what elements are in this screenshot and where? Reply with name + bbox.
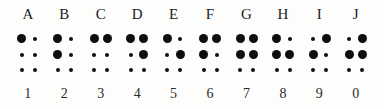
letter-label: E	[169, 7, 178, 22]
braille-dot-raised	[358, 50, 367, 59]
number-cell: 6	[194, 87, 226, 101]
braille-dot-flat	[178, 37, 182, 41]
braille-dot-flat	[20, 68, 24, 72]
braille-dot-flat	[360, 68, 364, 72]
braille-dot-raised	[53, 50, 62, 59]
braille-dot-flat	[347, 37, 351, 41]
number-label: 4	[134, 87, 141, 101]
braille-dot-raised	[103, 34, 112, 43]
number-label: 7	[243, 87, 250, 101]
letter-cell: B	[48, 7, 80, 22]
braille-dot-raised	[249, 34, 258, 43]
braille-dot-raised	[199, 34, 208, 43]
letter-label: G	[241, 7, 252, 22]
braille-dot-flat	[33, 37, 37, 41]
braille-dot-flat	[105, 68, 109, 72]
braille-dot-raised	[236, 34, 245, 43]
letter-cell: C	[85, 7, 117, 22]
braille-column	[85, 31, 117, 78]
letter-label: F	[206, 7, 215, 22]
braille-dot-raised	[199, 50, 208, 59]
braille-dot-flat	[105, 53, 109, 57]
braille-dot-flat	[202, 68, 206, 72]
letter-cell: A	[12, 7, 44, 22]
braille-dot-flat	[288, 68, 292, 72]
number-cell: 9	[304, 87, 336, 101]
letter-label: H	[277, 7, 288, 22]
braille-dot-raised	[272, 50, 281, 59]
braille-dot-flat	[69, 68, 73, 72]
number-cell: 0	[340, 87, 372, 101]
letter-cell: I	[304, 7, 336, 22]
chart-grid: A B C D E F G H I J 1 2 3 4	[0, 0, 384, 109]
letter-cell: D	[121, 7, 153, 22]
braille-cell	[270, 31, 296, 78]
braille-dot-raised	[212, 34, 221, 43]
braille-cell	[197, 31, 223, 78]
braille-dot-flat	[275, 68, 279, 72]
braille-dot-flat	[165, 68, 169, 72]
letter-label: C	[96, 7, 106, 22]
braille-dot-flat	[324, 53, 328, 57]
braille-cell	[124, 31, 150, 78]
braille-cell	[234, 31, 260, 78]
braille-dot-raised	[17, 34, 26, 43]
number-cell: 1	[12, 87, 44, 101]
braille-dot-flat	[129, 53, 133, 57]
braille-dot-raised	[345, 50, 354, 59]
braille-dot-raised	[285, 50, 294, 59]
braille-cell	[15, 31, 41, 78]
braille-dot-raised	[139, 50, 148, 59]
braille-dot-raised	[126, 34, 135, 43]
braille-column	[194, 31, 226, 78]
braille-column	[158, 31, 190, 78]
braille-dot-flat	[33, 53, 37, 57]
braille-dot-flat	[311, 37, 315, 41]
letter-cell: H	[267, 7, 299, 22]
letter-label-row: A B C D E F G H I J	[12, 3, 372, 25]
braille-dot-raised	[322, 34, 331, 43]
braille-cell-row	[12, 28, 372, 80]
braille-dot-flat	[165, 53, 169, 57]
letter-label: D	[132, 7, 143, 22]
braille-dot-flat	[33, 68, 37, 72]
number-label: 8	[279, 87, 286, 101]
braille-dot-raised	[176, 50, 185, 59]
braille-dot-flat	[347, 68, 351, 72]
braille-dot-flat	[238, 68, 242, 72]
letter-cell: E	[158, 7, 190, 22]
braille-dot-raised	[358, 34, 367, 43]
number-cell: 4	[121, 87, 153, 101]
letter-cell: F	[194, 7, 226, 22]
braille-dot-flat	[69, 53, 73, 57]
braille-column	[340, 31, 372, 78]
braille-column	[231, 31, 263, 78]
braille-column	[267, 31, 299, 78]
number-label: 3	[97, 87, 104, 101]
braille-cell	[51, 31, 77, 78]
braille-dot-raised	[272, 34, 281, 43]
braille-dot-raised	[53, 34, 62, 43]
braille-dot-flat	[324, 68, 328, 72]
braille-dot-flat	[92, 68, 96, 72]
braille-dot-flat	[20, 53, 24, 57]
number-label: 2	[61, 87, 68, 101]
number-cell: 8	[267, 87, 299, 101]
letter-label: J	[353, 7, 359, 22]
braille-column	[304, 31, 336, 78]
braille-dot-flat	[215, 68, 219, 72]
braille-column	[48, 31, 80, 78]
braille-cell	[161, 31, 187, 78]
letter-label: I	[317, 7, 322, 22]
braille-cell	[307, 31, 333, 78]
braille-dot-flat	[288, 37, 292, 41]
braille-dot-flat	[251, 68, 255, 72]
braille-dot-raised	[236, 50, 245, 59]
braille-dot-flat	[142, 68, 146, 72]
number-label: 6	[207, 87, 214, 101]
braille-dot-raised	[90, 34, 99, 43]
braille-cell	[88, 31, 114, 78]
braille-dot-flat	[69, 37, 73, 41]
braille-dot-raised	[309, 50, 318, 59]
number-label: 5	[170, 87, 177, 101]
